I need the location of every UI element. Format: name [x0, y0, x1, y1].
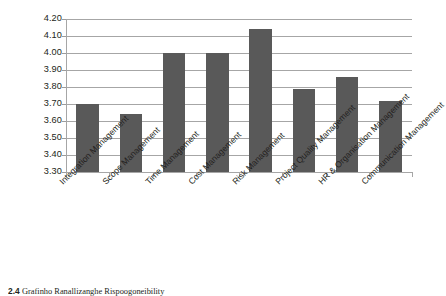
- y-tick-label: 3.50: [44, 133, 62, 142]
- y-tick-label: 4.20: [44, 14, 62, 23]
- y-tick-label: 3.90: [44, 65, 62, 74]
- y-tick-mark: [62, 36, 66, 37]
- caption-text: Grafinho Ranallizanghe Rispoogoneibility: [22, 287, 164, 296]
- y-tick-label: 4.10: [44, 31, 62, 40]
- y-tick-mark: [62, 53, 66, 54]
- y-tick-mark: [62, 172, 66, 173]
- x-axis-category-labels: Integration ManagementScope ManagementTi…: [0, 178, 424, 282]
- y-tick-mark: [62, 121, 66, 122]
- bar-chart: 4.204.104.003.903.803.703.603.503.403.30…: [0, 0, 424, 180]
- y-tick-label: 3.60: [44, 116, 62, 125]
- y-tick-mark: [62, 155, 66, 156]
- caption-number: 2.4: [8, 287, 20, 296]
- x-tick-mark: [412, 173, 413, 177]
- y-tick-mark: [62, 19, 66, 20]
- y-tick-mark: [62, 138, 66, 139]
- y-tick-label: 3.80: [44, 82, 62, 91]
- y-tick-label: 3.40: [44, 150, 62, 159]
- figure-caption: 2.4 Grafinho Ranallizanghe Rispoogoneibi…: [8, 287, 420, 296]
- y-axis: 4.204.104.003.903.803.703.603.503.403.30: [30, 14, 62, 172]
- y-tick-label: 3.70: [44, 99, 62, 108]
- y-tick-label: 3.30: [44, 167, 62, 176]
- y-tick-mark: [62, 70, 66, 71]
- y-tick-label: 4.00: [44, 48, 62, 57]
- y-tick-mark: [62, 104, 66, 105]
- y-tick-mark: [62, 87, 66, 88]
